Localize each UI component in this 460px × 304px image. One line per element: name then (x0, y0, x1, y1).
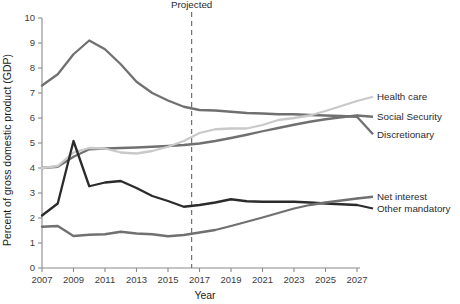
x-axis-tick-label: 2027 (346, 274, 367, 285)
projected-label: Projected (171, 0, 212, 10)
x-axis-tick-label: 2017 (189, 274, 210, 285)
y-axis: 012345678910 (24, 12, 42, 273)
leader-line-health-care (357, 97, 373, 101)
x-axis-tick-label: 2019 (220, 274, 241, 285)
y-axis-tick-label: 10 (24, 12, 35, 23)
y-axis-tick-label: 5 (30, 137, 35, 148)
x-axis-tick-label: 2023 (283, 274, 304, 285)
y-axis-tick-label: 1 (30, 237, 35, 248)
y-axis-tick-label: 0 (30, 262, 35, 273)
y-axis-tick-label: 2 (30, 212, 35, 223)
x-axis-tick-label: 2015 (157, 274, 178, 285)
x-axis-tick-label: 2009 (63, 274, 84, 285)
x-axis-tick-label: 2013 (126, 274, 147, 285)
chart-container: 012345678910 200720092011201320152017201… (0, 0, 460, 304)
x-axis: 2007200920112013201520172019202120232025… (31, 268, 367, 285)
series-line-social-security (42, 116, 357, 169)
y-axis-tick-label: 7 (30, 87, 35, 98)
x-axis-tick-label: 2021 (252, 274, 273, 285)
x-axis-title: Year (194, 289, 216, 301)
y-axis-tick-label: 9 (30, 37, 35, 48)
y-axis-tick-label: 3 (30, 187, 35, 198)
series-lines (42, 41, 357, 237)
projected-divider: Projected (171, 0, 212, 268)
gdp-spending-line-chart: 012345678910 200720092011201320152017201… (0, 0, 460, 304)
y-axis-tick-label: 8 (30, 62, 35, 73)
series-label-net-interest: Net interest (377, 191, 427, 202)
leader-line-other-mandatory (357, 205, 373, 209)
leader-line-social-security (357, 116, 373, 117)
series-label-discretionary: Discretionary (377, 129, 434, 140)
series-label-social-security: Social Security (377, 111, 442, 122)
series-label-health-care: Health care (377, 91, 428, 102)
y-axis-title: Percent of gross domestic product (GDP) (1, 54, 13, 246)
y-axis-tick-label: 4 (30, 162, 35, 173)
series-label-other-mandatory: Other mandatory (377, 203, 451, 214)
series-labels: DiscretionarySocial SecurityHealth careO… (357, 91, 451, 214)
series-line-discretionary (42, 41, 357, 117)
x-axis-tick-label: 2011 (95, 274, 115, 285)
x-axis-tick-label: 2007 (31, 274, 52, 285)
leader-line-discretionary (357, 117, 373, 135)
y-axis-tick-label: 6 (30, 112, 35, 123)
leader-line-net-interest (357, 197, 373, 199)
x-axis-tick-label: 2025 (315, 274, 336, 285)
